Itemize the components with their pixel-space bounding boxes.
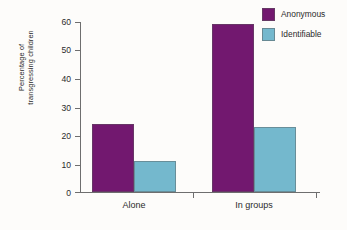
chart-legend: Anonymous Identifiable (262, 8, 325, 41)
legend-label-identifiable: Identifiable (281, 30, 322, 38)
legend-swatch-identifiable-icon (262, 28, 275, 41)
legend-swatch-anonymous-icon (262, 8, 275, 21)
legend-label-anonymous: Anonymous (281, 10, 325, 18)
y-axis-label-line-2: transgressing children (26, 0, 35, 137)
y-tick-label-0: 0 (45, 189, 71, 198)
legend-item-identifiable: Identifiable (262, 28, 325, 41)
y-tick-label-50: 50 (45, 46, 71, 55)
y-axis-line (80, 22, 81, 193)
legend-item-anonymous: Anonymous (262, 8, 325, 21)
x-category-label-in-groups: In groups (214, 200, 294, 210)
y-tick-label-10: 10 (45, 161, 71, 170)
y-tick-label-20: 20 (45, 132, 71, 141)
bar-chart: Percentage of transgressing children 60 … (0, 0, 347, 230)
y-tick-label-40: 40 (45, 75, 71, 84)
y-tick-label-30: 30 (45, 104, 71, 113)
y-axis-tick-labels: 60 50 40 30 20 10 0 (45, 0, 71, 230)
bar-anonymous-in-groups (212, 24, 254, 192)
y-axis-label-line-1: Percentage of (17, 0, 26, 137)
bar-anonymous-alone (92, 124, 134, 192)
x-axis-line (80, 192, 320, 193)
x-category-label-alone: Alone (94, 200, 174, 210)
x-tick-mark-center (193, 193, 194, 198)
y-tick-label-60: 60 (45, 18, 71, 27)
y-axis-label: Percentage of transgressing children (17, 0, 36, 137)
bar-identifiable-in-groups (254, 127, 296, 192)
x-tick-mark-right (316, 193, 317, 198)
bar-identifiable-alone (134, 161, 176, 192)
